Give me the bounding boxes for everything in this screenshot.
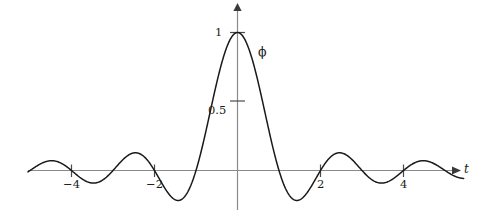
- x-axis-label: t: [464, 163, 469, 175]
- x-tick-label-4: 4: [400, 179, 407, 191]
- phi-curve: [28, 33, 464, 201]
- y-tick-label-one: 1: [215, 27, 222, 39]
- y-axis-arrow-icon: [233, 3, 241, 11]
- y-tick-label-half: 0.5: [208, 105, 226, 117]
- x-axis-arrow-icon: [452, 166, 461, 174]
- x-tick-label-2: 2: [317, 179, 324, 191]
- curve-label-phi: ϕ: [258, 46, 267, 59]
- x-tick-label-minus4: −4: [63, 179, 80, 191]
- x-tick-label-minus2: −2: [146, 179, 163, 191]
- sinc-function-plot: −4 −2 2 4 0.5 1 t ϕ: [0, 0, 488, 218]
